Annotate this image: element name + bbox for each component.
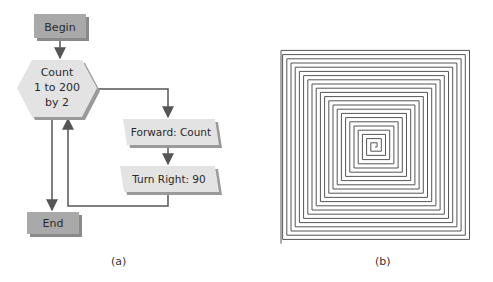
spiral-path — [281, 50, 470, 243]
arrow-loop-to-forward — [97, 89, 168, 117]
loop-label-3: by 2 — [45, 96, 69, 109]
forward-node: Forward: Count — [123, 119, 222, 148]
caption-b: (b) — [375, 255, 391, 268]
loop-node: Count 1 to 200 by 2 — [17, 60, 100, 120]
end-node: End — [27, 212, 82, 237]
figure-canvas: Begin Count 1 to 200 by 2 Forward: Count… — [0, 0, 493, 282]
begin-node: Begin — [34, 14, 89, 41]
loop-label-1: Count — [41, 66, 74, 79]
flowchart: Begin Count 1 to 200 by 2 Forward: Count… — [17, 14, 222, 237]
loop-label-2: 1 to 200 — [34, 81, 80, 94]
forward-label: Forward: Count — [131, 126, 211, 138]
caption-a: (a) — [111, 255, 126, 268]
square-spiral — [281, 50, 470, 243]
begin-label: Begin — [44, 21, 75, 34]
turn-node: Turn Right: 90 — [120, 166, 222, 195]
turn-label: Turn Right: 90 — [131, 173, 206, 185]
end-label: End — [43, 217, 64, 230]
